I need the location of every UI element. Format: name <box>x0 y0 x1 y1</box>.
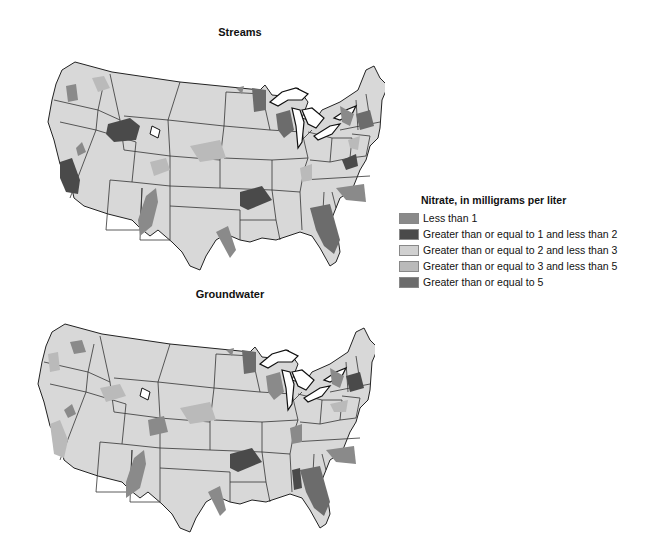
swatch-less-than-1 <box>399 213 419 224</box>
legend-item-3-to-5: Greater than or equal to 3 and less than… <box>399 258 644 274</box>
swatch-2-to-3 <box>399 245 419 256</box>
legend-label: Greater than or equal to 3 and less than… <box>423 260 617 272</box>
swatch-5-or-more <box>399 277 419 288</box>
legend-label: Greater than or equal to 1 and less than… <box>423 228 617 240</box>
swatch-3-to-5 <box>399 261 419 272</box>
legend-item-1-to-2: Greater than or equal to 1 and less than… <box>399 226 644 242</box>
legend-label: Greater than or equal to 5 <box>423 276 543 288</box>
legend-title: Nitrate, in milligrams per liter <box>421 194 644 206</box>
groundwater-map <box>30 292 375 537</box>
legend-label: Greater than or equal to 2 and less than… <box>423 244 617 256</box>
legend-label: Less than 1 <box>423 212 477 224</box>
legend-item-5-or-more: Greater than or equal to 5 <box>399 274 644 290</box>
legend-item-2-to-3: Greater than or equal to 2 and less than… <box>399 242 644 258</box>
legend: Nitrate, in milligrams per liter Less th… <box>399 194 644 290</box>
swatch-1-to-2 <box>399 229 419 240</box>
streams-map <box>40 30 385 275</box>
legend-item-less-than-1: Less than 1 <box>399 210 644 226</box>
